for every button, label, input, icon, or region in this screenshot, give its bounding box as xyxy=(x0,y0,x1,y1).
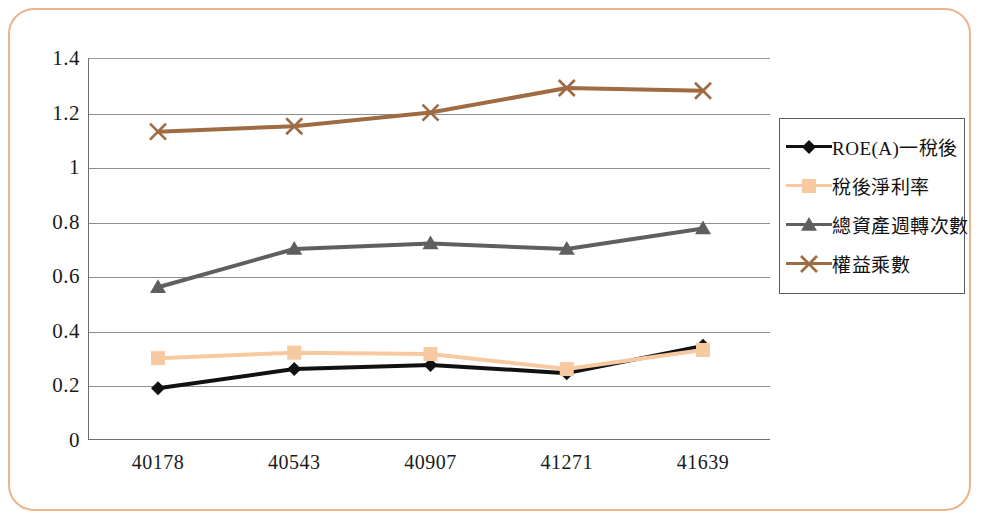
diamond-marker xyxy=(287,362,301,376)
series-3 xyxy=(150,80,711,140)
legend-item[interactable]: 權益乘數 xyxy=(786,244,958,283)
series-line xyxy=(158,88,703,132)
triangle-marker xyxy=(801,217,817,231)
legend-item[interactable]: 稅後淨利率 xyxy=(786,166,958,205)
legend-item[interactable]: 總資產週轉次數 xyxy=(786,205,958,244)
square-marker xyxy=(560,362,574,376)
cross-marker xyxy=(801,256,817,272)
legend-triangle-icon xyxy=(786,215,832,235)
legend-item-label: ROE(A)一稅後 xyxy=(832,133,958,160)
legend-diamond-icon xyxy=(786,137,832,157)
diamond-marker xyxy=(802,140,816,154)
square-marker xyxy=(696,343,710,357)
legend-item-label: 稅後淨利率 xyxy=(832,172,930,199)
legend-item[interactable]: ROE(A)一稅後 xyxy=(786,127,958,166)
square-marker xyxy=(424,347,438,361)
legend-square-icon xyxy=(786,176,832,196)
line-chart-figure: 00.20.40.60.811.21.4 4017840543409074127… xyxy=(0,0,983,527)
square-marker xyxy=(287,346,301,360)
chart-legend: ROE(A)一稅後稅後淨利率總資產週轉次數權益乘數 xyxy=(779,118,965,294)
legend-cross-icon xyxy=(786,254,832,274)
series-2 xyxy=(150,221,711,293)
legend-item-label: 權益乘數 xyxy=(832,250,910,277)
diamond-marker xyxy=(151,381,165,395)
square-marker xyxy=(802,179,816,193)
chart-page: 00.20.40.60.811.21.4 4017840543409074127… xyxy=(0,0,983,527)
legend-item-label: 總資產週轉次數 xyxy=(832,211,969,238)
square-marker xyxy=(151,351,165,365)
